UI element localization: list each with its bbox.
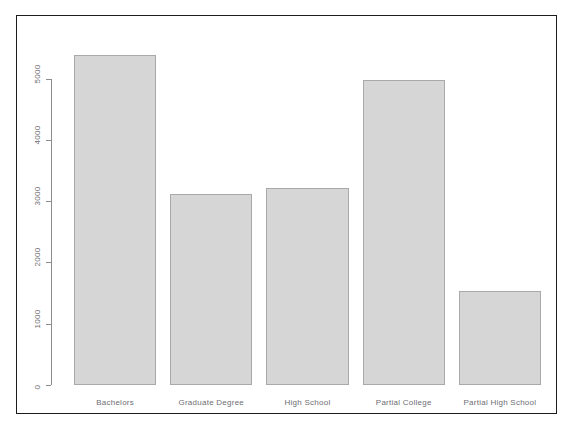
clipped-top-text-region (0, 0, 575, 6)
x-axis-category-label: High School (259, 398, 355, 407)
bar[interactable] (266, 188, 348, 385)
y-axis-tick (46, 79, 51, 80)
bar[interactable] (170, 194, 252, 385)
plot-area: 010002000300040005000BachelorsGraduate D… (17, 16, 558, 415)
plot-frame: 010002000300040005000BachelorsGraduate D… (16, 15, 557, 414)
y-axis-tick (46, 324, 51, 325)
x-axis-category-label: Partial College (356, 398, 452, 407)
bar[interactable] (74, 55, 156, 385)
x-axis-category-label: Partial High School (452, 398, 548, 407)
x-axis-category-label: Bachelors (67, 398, 163, 407)
y-axis-tick (46, 201, 51, 202)
y-axis-tick (46, 385, 51, 386)
y-axis-tick (46, 140, 51, 141)
bar[interactable] (363, 80, 445, 385)
y-axis-tick (46, 262, 51, 263)
y-axis-line (51, 79, 52, 385)
bar[interactable] (459, 291, 541, 385)
screenshot-root: 010002000300040005000BachelorsGraduate D… (0, 0, 575, 433)
x-axis-category-label: Graduate Degree (163, 398, 259, 407)
